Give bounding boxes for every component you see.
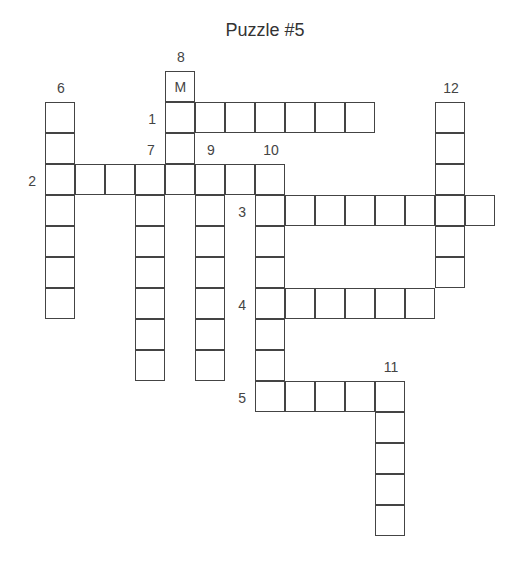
- grid-cell[interactable]: [465, 195, 495, 226]
- clue-number-1: 1: [142, 112, 156, 126]
- grid-cell[interactable]: [135, 226, 165, 257]
- grid-cell[interactable]: [375, 412, 405, 443]
- grid-cell[interactable]: [195, 288, 225, 319]
- grid-cell[interactable]: [45, 164, 75, 195]
- grid-cell[interactable]: [45, 195, 75, 226]
- clue-number-6: 6: [46, 81, 76, 95]
- grid-cell[interactable]: [435, 226, 465, 257]
- clue-number-10: 10: [256, 143, 286, 157]
- grid-cell[interactable]: [375, 381, 405, 412]
- clue-number-4: 4: [232, 298, 246, 312]
- grid-cell[interactable]: [135, 257, 165, 288]
- grid-cell[interactable]: [105, 164, 135, 195]
- grid-cell[interactable]: [135, 288, 165, 319]
- grid-cell[interactable]: [345, 195, 375, 226]
- grid-cell[interactable]: [135, 350, 165, 381]
- grid-cell[interactable]: [135, 195, 165, 226]
- grid-cell[interactable]: [375, 288, 405, 319]
- grid-cell[interactable]: [315, 381, 345, 412]
- clue-number-5: 5: [232, 391, 246, 405]
- grid-cell[interactable]: [375, 195, 405, 226]
- grid-cell[interactable]: [45, 288, 75, 319]
- grid-cell[interactable]: [225, 164, 255, 195]
- clue-number-2: 2: [22, 174, 36, 188]
- grid-cell[interactable]: [375, 505, 405, 536]
- grid-cell[interactable]: [75, 164, 105, 195]
- grid-cell[interactable]: [315, 195, 345, 226]
- cell-letter: M: [175, 79, 187, 95]
- grid-cell[interactable]: [195, 195, 225, 226]
- clue-number-9: 9: [196, 143, 226, 157]
- grid-cell[interactable]: [315, 102, 345, 133]
- clue-number-7: 7: [136, 143, 166, 157]
- crossword-grid: M123456789101112: [0, 0, 520, 567]
- grid-cell[interactable]: [165, 102, 195, 133]
- grid-cell[interactable]: [195, 257, 225, 288]
- grid-cell[interactable]: [255, 381, 285, 412]
- grid-cell[interactable]: [435, 164, 465, 195]
- grid-cell[interactable]: [225, 102, 255, 133]
- grid-cell[interactable]: [45, 133, 75, 164]
- grid-cell[interactable]: [345, 102, 375, 133]
- grid-cell[interactable]: [435, 133, 465, 164]
- grid-cell[interactable]: [135, 164, 165, 195]
- clue-number-8: 8: [166, 50, 196, 64]
- grid-cell[interactable]: [285, 288, 315, 319]
- grid-cell[interactable]: [45, 257, 75, 288]
- grid-cell[interactable]: [405, 195, 435, 226]
- grid-cell[interactable]: [285, 381, 315, 412]
- grid-cell[interactable]: [315, 288, 345, 319]
- grid-cell[interactable]: [435, 102, 465, 133]
- clue-number-11: 11: [376, 360, 406, 374]
- grid-cell[interactable]: [135, 319, 165, 350]
- grid-cell[interactable]: [255, 350, 285, 381]
- grid-cell[interactable]: [255, 319, 285, 350]
- grid-cell[interactable]: [165, 164, 195, 195]
- grid-cell[interactable]: [195, 102, 225, 133]
- grid-cell[interactable]: [285, 102, 315, 133]
- grid-cell[interactable]: [165, 133, 195, 164]
- grid-cell[interactable]: [255, 226, 285, 257]
- grid-cell[interactable]: [345, 381, 375, 412]
- grid-cell[interactable]: [435, 257, 465, 288]
- grid-cell[interactable]: [255, 288, 285, 319]
- grid-cell[interactable]: [195, 226, 225, 257]
- grid-cell[interactable]: [255, 164, 285, 195]
- grid-cell[interactable]: [255, 195, 285, 226]
- grid-cell[interactable]: [45, 226, 75, 257]
- grid-cell[interactable]: [435, 195, 465, 226]
- grid-cell[interactable]: [195, 164, 225, 195]
- grid-cell[interactable]: [375, 474, 405, 505]
- grid-cell[interactable]: [405, 288, 435, 319]
- grid-cell[interactable]: [255, 102, 285, 133]
- grid-cell[interactable]: [255, 257, 285, 288]
- grid-cell[interactable]: [345, 288, 375, 319]
- grid-cell[interactable]: [375, 443, 405, 474]
- clue-number-12: 12: [436, 81, 466, 95]
- grid-cell[interactable]: [195, 319, 225, 350]
- grid-cell[interactable]: M: [165, 71, 195, 102]
- grid-cell[interactable]: [195, 350, 225, 381]
- grid-cell[interactable]: [45, 102, 75, 133]
- clue-number-3: 3: [232, 205, 246, 219]
- grid-cell[interactable]: [285, 195, 315, 226]
